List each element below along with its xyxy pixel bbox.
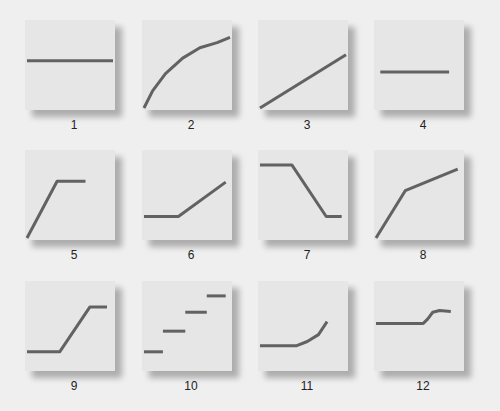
panel-number-label: 3: [258, 118, 356, 132]
figure-cell: 1: [25, 20, 135, 145]
shape-panel-1: [25, 20, 115, 110]
curve-line: [260, 322, 327, 346]
shape-panel-9: [25, 281, 115, 371]
curve-line: [260, 55, 346, 108]
shape-panel-6: [142, 150, 232, 240]
figure-cell: 4: [374, 20, 484, 145]
figure-cell: 9: [25, 281, 135, 406]
curve-plot: [258, 150, 348, 240]
figure-cell: 5: [25, 150, 135, 275]
figure-cell: 10: [142, 281, 252, 406]
curve-plot: [25, 281, 115, 371]
curve-plot: [374, 281, 464, 371]
curve-line: [144, 182, 226, 216]
curve-line: [27, 181, 85, 238]
curve-plot: [142, 20, 232, 110]
panel-number-label: 8: [374, 248, 472, 262]
curve-line: [260, 165, 342, 217]
shape-panel-2: [142, 20, 232, 110]
curve-plot: [374, 150, 464, 240]
shape-panel-7: [258, 150, 348, 240]
shape-panel-5: [25, 150, 115, 240]
curve-plot: [374, 20, 464, 110]
shape-panel-10: [142, 281, 232, 371]
figure-cell: 12: [374, 281, 484, 406]
curve-plot: [258, 281, 348, 371]
shape-panel-4: [374, 20, 464, 110]
figure-cell: 3: [258, 20, 368, 145]
panel-number-label: 6: [142, 248, 240, 262]
figure-cell: 11: [258, 281, 368, 406]
curve-plot: [25, 20, 115, 110]
figure-cell: 7: [258, 150, 368, 275]
shape-panel-3: [258, 20, 348, 110]
curve-plot: [142, 281, 232, 371]
curve-line: [376, 311, 451, 324]
figure-cell: 8: [374, 150, 484, 275]
figure-cell: 2: [142, 20, 252, 145]
panel-number-label: 4: [374, 118, 472, 132]
panel-number-label: 5: [25, 248, 123, 262]
panel-number-label: 11: [258, 379, 356, 393]
curve-plot: [142, 150, 232, 240]
curve-line: [27, 307, 107, 352]
figure-cell: 6: [142, 150, 252, 275]
panel-number-label: 2: [142, 118, 240, 132]
panel-number-label: 1: [25, 118, 123, 132]
curve-plot: [258, 20, 348, 110]
panel-number-label: 7: [258, 248, 356, 262]
panel-number-label: 9: [25, 379, 123, 393]
curve-line: [376, 169, 458, 238]
panel-number-label: 10: [142, 379, 240, 393]
curve-plot: [25, 150, 115, 240]
panel-number-label: 12: [374, 379, 472, 393]
curve-line: [144, 37, 230, 108]
shape-panel-11: [258, 281, 348, 371]
shape-panel-12: [374, 281, 464, 371]
shape-panel-8: [374, 150, 464, 240]
